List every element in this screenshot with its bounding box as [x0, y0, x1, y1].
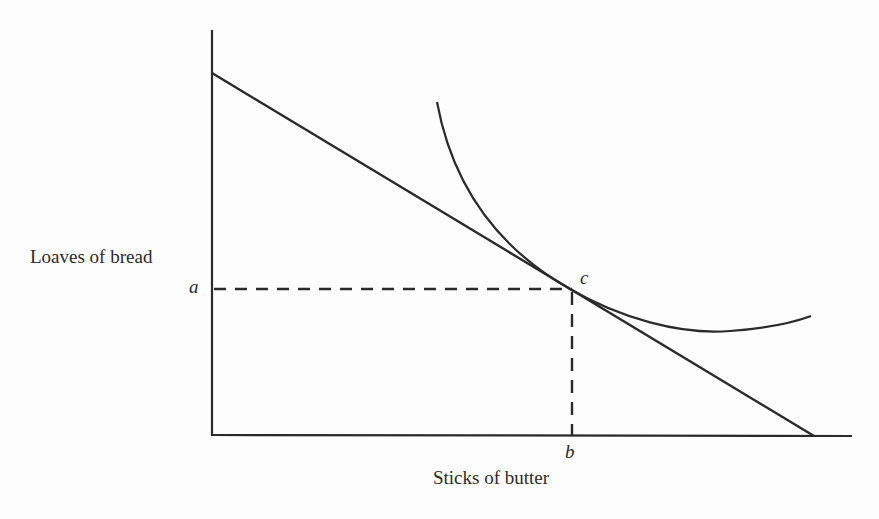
point-label-a: a	[189, 276, 199, 298]
x-axis-label: Sticks of butter	[433, 467, 549, 489]
point-label-b: b	[565, 441, 575, 463]
x-axis	[211, 435, 852, 436]
y-axis-label: Loaves of bread	[30, 246, 152, 268]
point-label-c: c	[580, 267, 588, 289]
indifference-curve	[437, 102, 811, 332]
budget-line	[212, 73, 814, 436]
